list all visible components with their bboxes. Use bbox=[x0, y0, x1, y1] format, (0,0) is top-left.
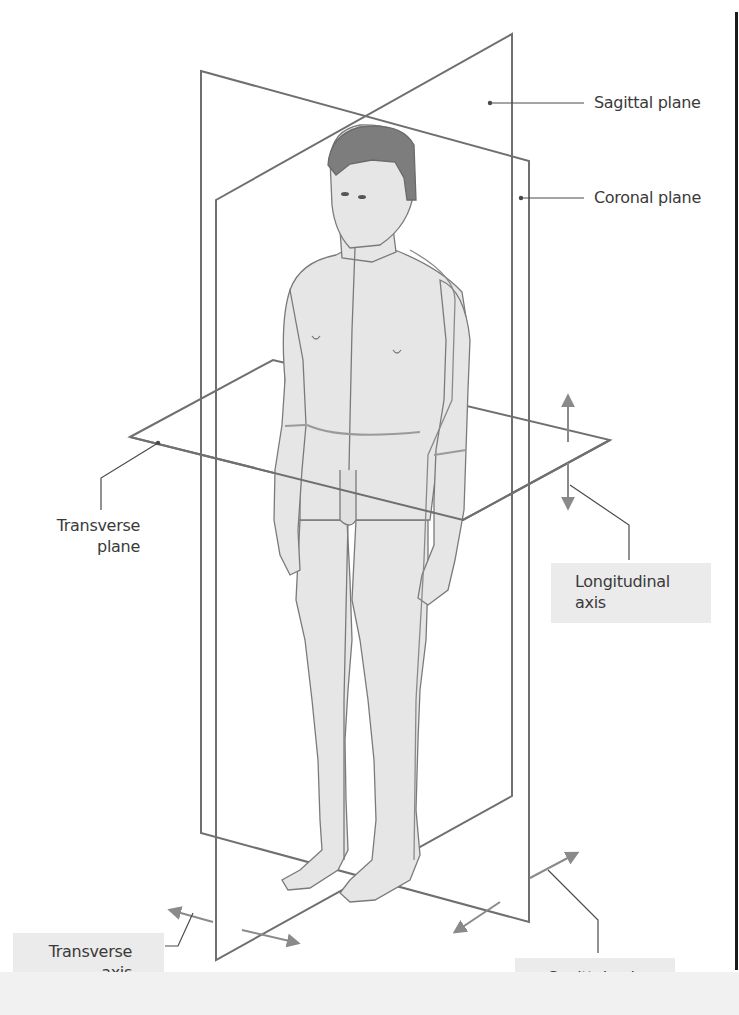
left-leg bbox=[282, 520, 352, 890]
anatomy-planes-diagram bbox=[0, 0, 739, 1015]
longitudinal-axis-label-line1: Longitudinal bbox=[575, 571, 711, 592]
sagittal-axis-arrows bbox=[455, 853, 577, 932]
longitudinal-axis-label-line2: axis bbox=[575, 592, 711, 613]
longitudinal-axis-label: Longitudinal axis bbox=[551, 563, 711, 623]
page-edge-rule bbox=[735, 12, 738, 970]
sagittal-plane-label: Sagittal plane bbox=[594, 92, 701, 113]
transverse-plane-label: Transverse plane bbox=[40, 515, 140, 557]
bottom-strip bbox=[0, 972, 739, 1015]
transverse-plane-label-line1: Transverse bbox=[40, 515, 140, 536]
coronal-plane-label: Coronal plane bbox=[594, 187, 701, 208]
transverse-axis-label-line1: Transverse bbox=[13, 941, 132, 962]
transverse-plane-label-line2: plane bbox=[40, 536, 140, 557]
transverse-axis-arrows bbox=[170, 910, 298, 943]
